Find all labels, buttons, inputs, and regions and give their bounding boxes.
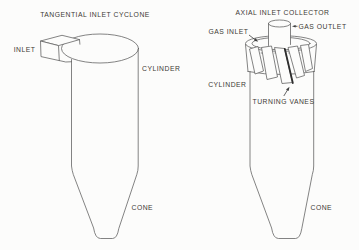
turning-vanes-arrow-head [286, 87, 290, 91]
turning-vanes-arrow-line [284, 90, 288, 97]
gas-inlet-label: GAS INLET [208, 28, 248, 35]
gas-outlet-label: GAS OUTLET [299, 23, 347, 30]
axial-inlet-collector-diagram: AXIAL INLET COLLECTOR GAS INLET GAS OUTL… [208, 9, 346, 239]
inlet-label: INLET [14, 46, 36, 53]
right-diagram-title: AXIAL INLET COLLECTOR [236, 9, 330, 16]
inlet-duct-bottom-edge [59, 61, 71, 63]
right-cone-label: CONE [311, 204, 333, 211]
collar-left-edge [246, 45, 249, 72]
cyclone-body-outline [72, 50, 139, 239]
outlet-tube-top-ellipse [269, 20, 291, 27]
gas-outlet-arrow-head [292, 25, 296, 27]
collar-right-edge [314, 45, 316, 72]
tangential-inlet-cyclone-diagram: TANGENTIAL INLET CYCLONE INLET CYLINDER … [14, 11, 181, 239]
left-cylinder-label: CYLINDER [142, 65, 180, 72]
left-cone-label: CONE [132, 204, 154, 211]
turning-vane-1 [250, 47, 264, 75]
cyclone-diagram-figure: TANGENTIAL INLET CYCLONE INLET CYLINDER … [0, 0, 359, 250]
turning-vanes-label: TURNING VANES [253, 98, 315, 105]
diagram-svg: TANGENTIAL INLET CYCLONE INLET CYLINDER … [0, 0, 359, 250]
left-diagram-title: TANGENTIAL INLET CYCLONE [40, 11, 150, 18]
right-cylinder-label: CYLINDER [208, 81, 246, 88]
